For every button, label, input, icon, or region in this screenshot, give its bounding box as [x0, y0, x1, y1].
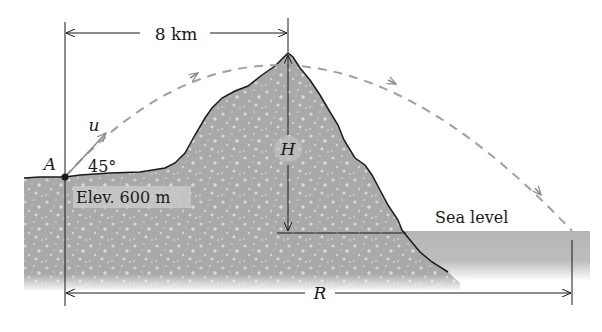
- horizontal-distance-label: 8 km: [155, 24, 198, 44]
- trajectory-arrow-icon: [535, 188, 541, 195]
- height-label: H: [280, 139, 297, 159]
- trajectory-arrow-icon: [190, 73, 198, 78]
- point-a-label: A: [42, 154, 56, 174]
- elevation-label: Elev. 600 m: [76, 188, 170, 207]
- trajectory-arrow-icon: [388, 80, 396, 84]
- range-label: R: [313, 283, 327, 303]
- sea-level-label: Sea level: [435, 208, 508, 227]
- angle-label: 45°: [88, 157, 116, 176]
- velocity-label: u: [89, 115, 100, 135]
- point-a-marker: [62, 174, 69, 181]
- projectile-diagram: 8 km A u 45° Elev. 600 m H Sea level R: [0, 0, 602, 332]
